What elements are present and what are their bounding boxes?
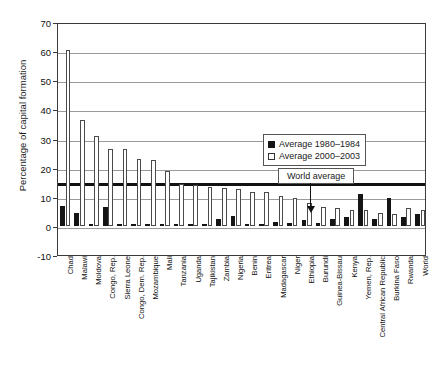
x-label-burundi: Burundi <box>321 256 330 282</box>
bar-2000-2003 <box>350 210 355 226</box>
bar-group <box>86 24 100 255</box>
x-label-yemen-rep: Yemen, Rep. <box>364 256 373 300</box>
y-tick-label-20: 20 <box>11 163 51 174</box>
bar-group <box>214 24 228 255</box>
bar-2000-2003 <box>137 159 142 226</box>
bar-2000-2003 <box>151 160 156 226</box>
y-tick-label-10: 10 <box>11 192 51 203</box>
bar-2000-2003 <box>236 189 241 225</box>
x-label-world: World <box>421 256 430 276</box>
y-tick-label-30: 30 <box>11 134 51 145</box>
bar-2000-2003 <box>406 208 411 225</box>
bar-group <box>129 24 143 255</box>
x-label-burkina-faso: Burkina Faso <box>392 256 401 301</box>
bar-2000-2003 <box>208 187 213 226</box>
y-tick-mark-40 <box>53 110 57 111</box>
bar-1980-1984 <box>231 216 236 226</box>
bar-2000-2003 <box>378 213 383 226</box>
bar-2000-2003 <box>264 192 269 225</box>
bar-1980-1984 <box>273 222 278 226</box>
bar-group <box>157 24 171 255</box>
bar-2000-2003 <box>250 192 255 226</box>
bar-2000-2003 <box>335 208 340 225</box>
x-label-tanzania: Tanzania <box>179 256 188 286</box>
bar-2000-2003 <box>279 196 284 226</box>
bar-2000-2003 <box>94 136 99 226</box>
bar-group <box>370 24 384 255</box>
y-tick-mark-60 <box>53 52 57 53</box>
bar-group <box>72 24 86 255</box>
bar-1980-1984 <box>174 224 179 226</box>
bar-1980-1984 <box>202 224 207 226</box>
x-label-mozambique: Mozambique <box>151 256 160 299</box>
bar-1980-1984 <box>103 207 108 226</box>
legend-swatch-dark <box>268 141 275 148</box>
y-tick-mark-0 <box>53 227 57 228</box>
x-label-moldova: Moldova <box>94 256 103 285</box>
x-label-congo-rep: Congo, Rep. <box>108 256 117 299</box>
bar-1980-1984 <box>344 217 349 226</box>
x-label-rwanda: Rwanda <box>406 256 415 284</box>
bar-2000-2003 <box>179 184 184 226</box>
bar-2000-2003 <box>293 198 298 226</box>
bar-1980-1984 <box>145 224 150 226</box>
bar-2000-2003 <box>108 149 113 226</box>
bar-group <box>143 24 157 255</box>
x-label-kenya: Kenya <box>350 256 359 278</box>
bar-1980-1984 <box>245 224 250 226</box>
bar-2000-2003 <box>392 214 397 226</box>
bar-2000-2003 <box>80 120 85 226</box>
y-tick-label-70: 70 <box>11 18 51 29</box>
bar-2000-2003 <box>321 207 326 226</box>
bar-2000-2003 <box>123 149 128 226</box>
bar-2000-2003 <box>222 188 227 226</box>
bar-1980-1984 <box>372 219 377 226</box>
x-label-uganda: Uganda <box>194 256 203 283</box>
y-tick-mark-30 <box>53 140 57 141</box>
bar-2000-2003 <box>165 171 170 226</box>
bar-1980-1984 <box>188 224 193 226</box>
x-label-benin: Benin <box>250 256 259 275</box>
x-label-zambia: Zambia <box>222 256 231 281</box>
world-average-arrow-head <box>307 206 315 213</box>
bar-2000-2003 <box>421 210 426 226</box>
bar-group <box>115 24 129 255</box>
x-label-sierra-leone: Sierra Leone <box>123 256 132 299</box>
bar-1980-1984 <box>287 223 292 226</box>
x-label-nigeria: Nigeria <box>236 256 245 280</box>
bar-1980-1984 <box>60 206 65 226</box>
x-label-niger: Niger <box>293 256 302 274</box>
chart-figure: Percentage of capital formation Average … <box>0 0 433 371</box>
bar-2000-2003 <box>193 185 198 226</box>
bar-1980-1984 <box>316 223 321 226</box>
bar-1980-1984 <box>302 220 307 226</box>
legend-label-2000-2003: Average 2000–2003 <box>279 150 360 162</box>
x-label-mali: Mali <box>165 256 174 270</box>
bar-group <box>172 24 186 255</box>
bar-2000-2003 <box>364 210 369 226</box>
y-tick-label-0: 0 <box>11 221 51 232</box>
legend-swatch-light <box>268 153 275 160</box>
y-tick-mark-50 <box>53 81 57 82</box>
bar-1980-1984 <box>117 224 122 226</box>
x-label-guinea-bissau: Guinea-Bissau <box>335 256 344 306</box>
bar-series-container <box>58 24 425 255</box>
bar-1980-1984 <box>387 198 392 226</box>
x-label-malawi: Malawi <box>80 256 89 280</box>
bar-1980-1984 <box>401 217 406 226</box>
bar-group <box>58 24 72 255</box>
bar-group <box>101 24 115 255</box>
y-tick-label-50: 50 <box>11 76 51 87</box>
bar-group <box>399 24 413 255</box>
x-label-congo-dem-rep: Congo, Dem. Rep. <box>137 256 146 319</box>
bar-1980-1984 <box>330 219 335 226</box>
bar-1980-1984 <box>160 224 165 226</box>
y-tick-label-60: 60 <box>11 47 51 58</box>
bar-1980-1984 <box>74 213 79 226</box>
legend-item-2000-2003: Average 2000–2003 <box>268 150 360 162</box>
bar-2000-2003 <box>66 50 71 226</box>
legend: Average 1980–1984 Average 2000–2003 <box>263 134 366 166</box>
x-label-tajikistan: Tajikistan <box>208 256 217 287</box>
y-tick-mark-20 <box>53 169 57 170</box>
y-tick-label-40: 40 <box>11 105 51 116</box>
